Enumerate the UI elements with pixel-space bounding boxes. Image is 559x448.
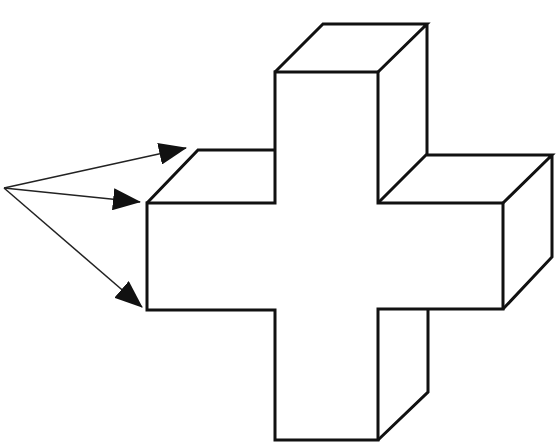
cross-shape [147,24,552,440]
left-arm-depth [147,150,275,203]
right-arm-depth [378,155,552,309]
arrow-upper [4,148,186,188]
arrow-lower [4,188,142,307]
pointer-arrows [4,148,186,307]
arrow-middle [4,188,140,202]
top-arm-depth [275,24,427,155]
cross-front-face [147,72,503,440]
cross-diagram [0,0,559,448]
bottom-arm-depth [378,310,428,440]
